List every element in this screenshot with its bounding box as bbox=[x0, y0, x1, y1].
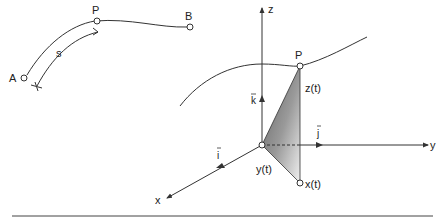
arc-end-arrow-icon bbox=[93, 28, 98, 35]
unit-i-arrow-icon bbox=[216, 163, 225, 168]
right-figure: z y x P z(t) x(t) y(t) k j i bbox=[155, 3, 436, 206]
unit-j-arrow-icon bbox=[316, 142, 323, 148]
space-curve bbox=[180, 37, 367, 106]
point-p-right-marker bbox=[297, 63, 303, 69]
label-p-right: P bbox=[295, 49, 302, 61]
diagram-canvas: A P B s z y x P z(t) x(t) y(t) bbox=[0, 0, 442, 223]
label-yt: y(t) bbox=[256, 163, 272, 175]
label-unit-i: i bbox=[217, 150, 219, 161]
point-xt-marker bbox=[297, 180, 303, 186]
point-p-marker bbox=[94, 18, 100, 24]
label-b: B bbox=[185, 10, 192, 22]
point-b-marker bbox=[187, 24, 193, 30]
origin-marker bbox=[259, 142, 265, 148]
label-xt: x(t) bbox=[305, 178, 321, 190]
arc-start-tick-icon bbox=[31, 82, 42, 91]
label-unit-k: k bbox=[251, 95, 257, 106]
arc-length-path bbox=[37, 32, 98, 86]
curve-apb bbox=[27, 20, 187, 75]
unit-k-arrow-icon bbox=[259, 95, 265, 102]
point-a-marker bbox=[21, 75, 27, 81]
label-x-axis: x bbox=[155, 194, 161, 206]
label-z-axis: z bbox=[268, 3, 274, 15]
x-axis bbox=[167, 145, 262, 198]
label-y-axis: y bbox=[430, 139, 436, 151]
label-p-left: P bbox=[92, 4, 99, 16]
label-unit-j: j bbox=[316, 128, 319, 139]
label-zt: z(t) bbox=[305, 82, 321, 94]
left-figure: A P B s bbox=[9, 4, 193, 91]
label-a: A bbox=[9, 72, 17, 84]
label-s: s bbox=[56, 47, 62, 59]
